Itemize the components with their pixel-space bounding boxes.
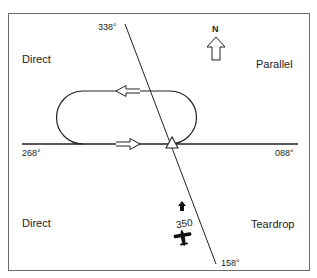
radial-label-088: 088°: [275, 148, 294, 158]
holding-pattern-diagram: [0, 0, 317, 278]
holding-fix-triangle-icon: [166, 137, 178, 148]
radial-label-338: 338°: [98, 22, 117, 32]
holding-racetrack: [57, 91, 197, 144]
radial-label-158: 158°: [221, 258, 240, 268]
heading-arrow-icon: [178, 201, 186, 211]
radial-label-268: 268°: [22, 148, 41, 158]
inbound-arrow-icon: [116, 139, 140, 150]
sector-label-parallel: Parallel: [256, 58, 293, 70]
sector-label-direct-top: Direct: [22, 53, 51, 65]
north-arrow-icon: [207, 37, 225, 60]
aircraft-heading-label: 350: [175, 217, 193, 230]
sector-label-direct-bottom: Direct: [22, 217, 51, 229]
sector-label-teardrop: Teardrop: [251, 218, 294, 230]
north-label: N: [212, 24, 219, 34]
airplane-icon: [173, 229, 194, 248]
outbound-arrow-icon: [116, 86, 140, 97]
